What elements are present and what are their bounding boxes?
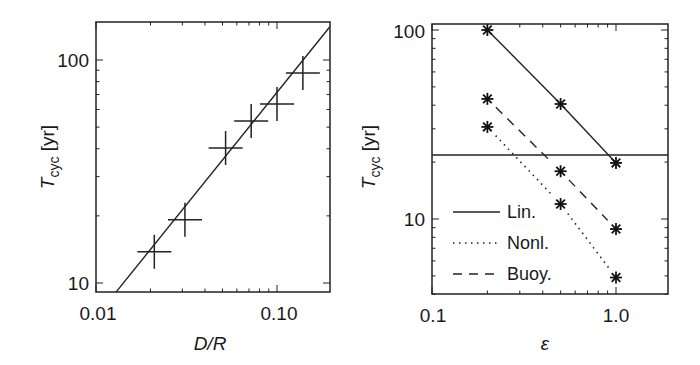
data-point-cross [137,235,171,269]
legend: Lin. Nonl. Buoy. [453,202,552,284]
right-ylabel-unit: [yr] [358,125,379,157]
asterisk-marker [610,157,622,169]
series-line-buoy [569,180,608,220]
right-plot-area [432,24,668,284]
asterisk-marker [610,272,622,284]
asterisk-marker [481,121,493,133]
figure: 100 10 0.01 0.10 D/R Tcyc [yr] 100 10 0.… [0,0,700,365]
asterisk-marker [555,198,567,210]
asterisk-marker [610,223,622,235]
asterisk-marker [481,93,493,105]
left-minor-ticks [96,22,330,292]
right-plot-frame [432,24,668,294]
legend-label-nonl: Nonl. [507,233,549,253]
right-ytick-100: 100 [393,21,425,42]
right-ylabel-sub: cyc [367,157,383,178]
data-point-cross [168,203,202,237]
right-xtick-0.1: 0.1 [420,305,446,326]
data-point-cross [260,87,294,121]
right-minor-ticks [432,24,668,294]
right-ylabel: Tcyc [yr] [358,125,383,189]
series-line-nonl [496,136,553,196]
series-line-nonl [568,214,609,268]
left-ylabel-sub: cyc [46,157,62,178]
left-ylabel: Tcyc [yr] [37,125,62,189]
right-panel: 100 10 0.1 1.0 ε Tcyc [yr] Lin. Nonl. Bu… [358,21,668,354]
left-xtick-0.10: 0.10 [261,303,298,324]
left-ytick-10: 10 [68,273,89,294]
left-xtick-0.01: 0.01 [80,303,117,324]
legend-label-lin: Lin. [507,202,536,222]
left-ylabel-unit: [yr] [37,125,58,157]
series-line-lin [487,30,560,104]
left-xlabel: D/R [194,333,227,354]
left-plot-area [116,27,330,292]
asterisk-marker [481,24,493,36]
right-ytick-10: 10 [404,209,425,230]
series-line-lin [561,104,616,163]
asterisk-marker [555,165,567,177]
legend-label-buoy: Buoy. [507,264,552,284]
data-point-cross [209,131,243,165]
right-xtick-1.0: 1.0 [603,305,629,326]
data-point-cross [286,56,320,90]
left-panel: 100 10 0.01 0.10 D/R Tcyc [yr] [37,22,330,354]
asterisk-marker [555,98,567,110]
left-plot-frame [96,22,330,292]
right-xlabel: ε [541,333,550,354]
left-ytick-100: 100 [57,50,89,71]
